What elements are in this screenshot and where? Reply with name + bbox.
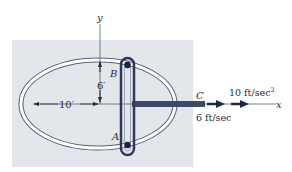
acceleration-label: 10 ft/sec2 bbox=[229, 86, 275, 98]
horizontal-rod bbox=[132, 101, 205, 107]
mechanism-diagram: y x 10′ 6′ B A C 6 ft/sec 10 ft/sec2 bbox=[0, 0, 292, 172]
x-axis-label: x bbox=[276, 99, 282, 110]
acceleration-arrow bbox=[231, 100, 249, 108]
acceleration-exponent: 2 bbox=[270, 86, 274, 94]
velocity-arrow bbox=[207, 100, 225, 108]
point-B-label: B bbox=[109, 68, 117, 79]
y-axis-label: y bbox=[96, 12, 103, 23]
point-A-label: A bbox=[111, 131, 119, 142]
point-C-label: C bbox=[196, 90, 204, 101]
pin-B bbox=[124, 62, 130, 68]
semi-minor-label: 6′ bbox=[97, 80, 106, 91]
semi-major-label: 10′ bbox=[59, 99, 75, 110]
velocity-label: 6 ft/sec bbox=[196, 112, 231, 123]
pin-A bbox=[124, 142, 130, 148]
